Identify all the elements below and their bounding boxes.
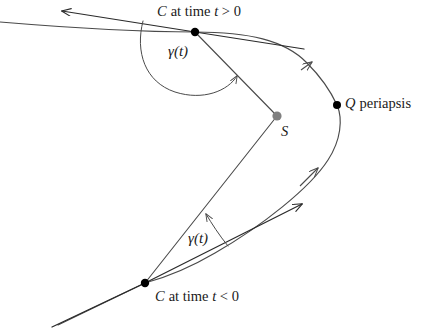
label-comet-past-point: C bbox=[155, 288, 165, 304]
trajectory-direction-arrows bbox=[300, 62, 318, 186]
asymptote-lower bbox=[52, 204, 302, 327]
label-comet-future-text: at time bbox=[171, 3, 211, 19]
orbit-diagram-figure: Cat time t > 0 Cat time t < 0 Qperiapsis… bbox=[0, 0, 427, 336]
comet-point-past-marker bbox=[141, 279, 149, 287]
periapsis-point-marker bbox=[333, 101, 341, 109]
label-sun: S bbox=[281, 124, 288, 139]
diagram-canvas bbox=[0, 0, 427, 336]
label-angle-lower: γ(t) bbox=[188, 231, 208, 246]
comet-point-future-marker bbox=[191, 28, 199, 36]
radius-vector-past bbox=[145, 116, 277, 283]
label-comet-past-text: at time bbox=[169, 288, 209, 304]
label-periapsis-text: periapsis bbox=[359, 95, 411, 111]
sun-focus-point-marker bbox=[272, 111, 281, 120]
trajectory-curve bbox=[0, 22, 340, 325]
angle-arc-lower bbox=[206, 214, 228, 246]
label-periapsis: Qperiapsis bbox=[345, 96, 411, 111]
label-comet-future: Cat time t > 0 bbox=[157, 4, 241, 19]
label-comet-past-relation: < 0 bbox=[220, 288, 239, 304]
radius-vector-future bbox=[195, 32, 277, 116]
label-periapsis-point: Q bbox=[345, 95, 355, 111]
label-comet-future-variable: t bbox=[214, 3, 218, 19]
label-angle-upper: γ(t) bbox=[168, 44, 188, 59]
label-comet-future-point: C bbox=[157, 3, 167, 19]
label-comet-past-variable: t bbox=[212, 288, 216, 304]
label-comet-future-relation: > 0 bbox=[222, 3, 241, 19]
label-comet-past: Cat time t < 0 bbox=[155, 289, 239, 304]
